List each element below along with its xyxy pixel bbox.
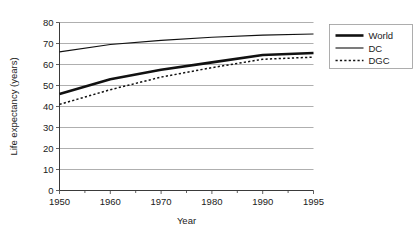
series-layer: [60, 34, 314, 104]
series-line-dc: [60, 34, 314, 52]
y-tick-label: 30: [43, 122, 54, 133]
chart-container: 01020304050607080 1950196019701980199019…: [0, 0, 417, 238]
legend-label: World: [369, 30, 394, 41]
chart-legend: WorldDCDGC: [330, 25, 413, 69]
y-tick-label: 80: [43, 17, 54, 28]
y-tick-label: 10: [43, 164, 54, 175]
x-axis-title: Year: [177, 215, 196, 226]
y-axis-tick-labels: 01020304050607080: [43, 17, 54, 196]
x-axis-ticks: [60, 191, 314, 195]
gridlines: [60, 23, 314, 170]
x-tick-label: 1980: [201, 196, 222, 207]
x-tick-label: 1995: [303, 196, 324, 207]
x-tick-label: 1990: [252, 196, 273, 207]
y-tick-label: 50: [43, 80, 54, 91]
x-tick-label: 1960: [100, 196, 121, 207]
x-axis-tick-labels: 195019601970198019901995: [49, 196, 324, 207]
y-axis-title: Life expectancy (years): [8, 57, 19, 155]
y-axis-ticks: [56, 23, 60, 191]
x-tick-label: 1950: [49, 196, 70, 207]
y-tick-label: 60: [43, 59, 54, 70]
legend-label: DGC: [369, 55, 390, 66]
y-tick-label: 40: [43, 101, 54, 112]
y-tick-label: 20: [43, 143, 54, 154]
legend-label: DC: [369, 43, 383, 54]
y-tick-label: 70: [43, 38, 54, 49]
line-chart: 01020304050607080 1950196019701980199019…: [0, 0, 417, 238]
y-tick-label: 0: [48, 185, 53, 196]
x-tick-label: 1970: [151, 196, 172, 207]
